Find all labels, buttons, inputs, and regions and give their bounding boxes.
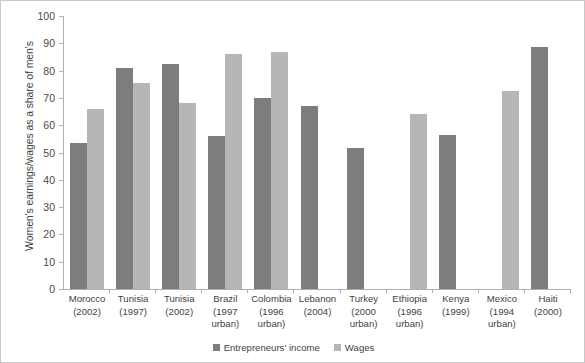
bar-group: [525, 16, 571, 289]
x-axis-label-line: Colombia: [248, 293, 294, 306]
y-tick-mark: [59, 16, 63, 17]
x-axis-label: Kenya(1999): [433, 293, 479, 331]
y-tick-label: 30: [43, 201, 55, 213]
y-tick-mark: [59, 207, 63, 208]
y-tick-mark: [59, 98, 63, 99]
bar-group: [433, 16, 479, 289]
x-axis-label-line: (2000): [525, 306, 571, 319]
y-tick-mark: [59, 234, 63, 235]
bar: [439, 135, 456, 289]
x-axis-label: Haiti(2000): [525, 293, 571, 331]
bar-group: [479, 16, 525, 289]
bar: [531, 47, 548, 289]
bar-groups: [64, 16, 571, 289]
y-tick-label: 90: [43, 37, 55, 49]
y-tick-label: 80: [43, 65, 55, 77]
bar-group-bars: [525, 16, 571, 289]
y-tick-label: 60: [43, 119, 55, 131]
x-axis-label: Brazil(1997urban): [202, 293, 248, 331]
x-axis-labels: Morocco(2002)Tunisia(1997)Tunisia(2002)B…: [64, 293, 571, 331]
x-axis-label-line: Ethiopia: [387, 293, 433, 306]
bar-group: [294, 16, 340, 289]
bar-group: [156, 16, 202, 289]
bar-chart: Women's earnings/wages as a share of men…: [0, 0, 585, 363]
bar: [162, 64, 179, 289]
y-tick-label: 100: [37, 10, 55, 22]
bar-group: [341, 16, 387, 289]
y-tick-label: 10: [43, 256, 55, 268]
bar-group: [202, 16, 248, 289]
bar: [208, 136, 225, 289]
legend-swatch-icon: [334, 344, 341, 351]
bar: [225, 54, 242, 289]
x-axis-label-line: urban): [341, 318, 387, 331]
bar: [87, 109, 104, 289]
legend-label: Entrepreneurs' income: [224, 342, 320, 353]
legend-label: Wages: [345, 342, 375, 353]
bar-group-bars: [341, 16, 387, 289]
x-axis-label-line: urban): [248, 318, 294, 331]
y-tick-label: 50: [43, 147, 55, 159]
x-axis-label-line: Turkey: [341, 293, 387, 306]
legend-item: Wages: [334, 342, 375, 353]
bar-group-bars: [64, 16, 110, 289]
bar-group-bars: [202, 16, 248, 289]
y-tick-mark: [59, 289, 63, 290]
y-tick-mark: [59, 71, 63, 72]
legend-item: Entrepreneurs' income: [213, 342, 320, 353]
bar-group: [110, 16, 156, 289]
bar-group-bars: [248, 16, 294, 289]
x-axis-label-line: Tunisia: [110, 293, 156, 306]
bar-group-bars: [156, 16, 202, 289]
bar-group-bars: [433, 16, 479, 289]
y-tick-label: 0: [49, 283, 55, 295]
bar-group-bars: [110, 16, 156, 289]
x-axis-label: Tunisia(2002): [156, 293, 202, 331]
x-axis-label-line: (2000: [341, 306, 387, 319]
x-axis-label-line: (2004): [294, 306, 340, 319]
x-axis-line: [63, 289, 571, 290]
x-axis-label-line: urban): [202, 318, 248, 331]
x-axis-label: Lebanon(2004): [294, 293, 340, 331]
x-axis-label-line: urban): [387, 318, 433, 331]
x-axis-label-line: Kenya: [433, 293, 479, 306]
x-axis-label: Colombia(1996urban): [248, 293, 294, 331]
x-axis-label-line: Brazil: [202, 293, 248, 306]
bar: [347, 148, 364, 289]
x-axis-label: Mexico(1994urban): [479, 293, 525, 331]
x-axis-label-line: urban): [479, 318, 525, 331]
x-axis-label-line: (1997: [202, 306, 248, 319]
y-tick-label: 20: [43, 228, 55, 240]
x-axis-label-line: (1994: [479, 306, 525, 319]
x-axis-label-line: (2002): [64, 306, 110, 319]
x-axis-label-line: Haiti: [525, 293, 571, 306]
y-tick-label: 70: [43, 92, 55, 104]
x-axis-label: Tunisia(1997): [110, 293, 156, 331]
y-tick-mark: [59, 180, 63, 181]
bar: [410, 114, 427, 289]
bar: [301, 106, 318, 289]
x-axis-label-line: (1996: [387, 306, 433, 319]
x-axis-label: Morocco(2002): [64, 293, 110, 331]
bar-group: [387, 16, 433, 289]
x-axis-label: Ethiopia(1996urban): [387, 293, 433, 331]
bar: [70, 143, 87, 289]
bar-group-bars: [294, 16, 340, 289]
x-axis-label-line: Morocco: [64, 293, 110, 306]
bar-group: [248, 16, 294, 289]
x-axis-label-line: Mexico: [479, 293, 525, 306]
bar: [179, 103, 196, 289]
bar: [116, 68, 133, 289]
bar-group-bars: [479, 16, 525, 289]
y-tick-mark: [59, 153, 63, 154]
bar: [271, 52, 288, 290]
bar-group: [64, 16, 110, 289]
x-axis-label-line: (1999): [433, 306, 479, 319]
y-tick-mark: [59, 125, 63, 126]
bar: [133, 83, 150, 289]
bar: [254, 98, 271, 289]
x-axis-label: Turkey(2000urban): [341, 293, 387, 331]
bar-group-bars: [387, 16, 433, 289]
x-axis-label-line: (1996: [248, 306, 294, 319]
y-tick-label: 40: [43, 174, 55, 186]
